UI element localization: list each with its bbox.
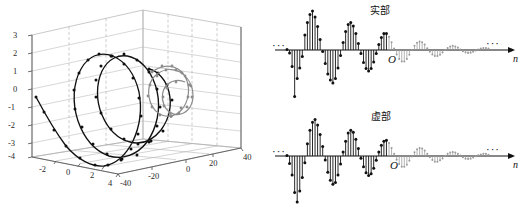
stem-marker (301, 176, 304, 179)
figure-root: 3 2 1 0 -1 -2 -3 -4 -2 0 2 4 -40 -20 0 2… (0, 0, 525, 209)
z-tick-label: 1 (13, 66, 17, 76)
stem-marker (296, 77, 299, 80)
stem-marker (447, 47, 449, 49)
y-tick-label: 20 (209, 158, 218, 168)
stem-marker (462, 156, 464, 158)
stem-marker (367, 70, 370, 73)
z-tick-label: 3 (13, 30, 17, 40)
stem-marker (467, 52, 469, 54)
stem-marker (296, 200, 299, 203)
stem-marker (308, 129, 311, 132)
stem-marker (475, 50, 477, 52)
stem-marker (401, 60, 403, 62)
stem-marker (359, 52, 362, 55)
stem-marker (408, 54, 410, 56)
stem-marker (344, 140, 347, 143)
stem-marker (385, 139, 388, 142)
stem-marker (380, 36, 383, 39)
stem-marker (419, 41, 421, 43)
stem-marker (434, 55, 436, 57)
stem-marker (403, 60, 405, 62)
helix-near-series (35, 53, 174, 167)
imag-part-title: 虚部 (371, 112, 391, 122)
stem-marker (439, 159, 441, 161)
stem-marker (480, 48, 482, 50)
right-ellipsis: ··· (486, 144, 500, 155)
stem-marker (372, 167, 375, 170)
stem-marker (406, 58, 408, 60)
stem-marker (449, 45, 451, 47)
stem-marker (457, 47, 459, 49)
stem-marker (382, 140, 385, 143)
stem-marker (377, 43, 380, 46)
stem-marker (477, 48, 479, 50)
z-tick-label: 2 (13, 48, 17, 58)
stem-marker (398, 163, 400, 165)
stem-marker (411, 49, 413, 51)
stem-marker (426, 153, 428, 155)
real-part-title: 实部 (370, 6, 390, 16)
stem-marker (457, 153, 459, 155)
y-tick-label: 0 (186, 164, 190, 174)
z-tick-label: -1 (8, 102, 15, 112)
stem-marker (311, 121, 314, 124)
stem-marker (416, 148, 418, 150)
stem-marker (421, 147, 423, 149)
stem-marker (308, 13, 311, 16)
stem-marker (377, 150, 380, 153)
origin-label: O (388, 53, 396, 65)
stem-marker (444, 49, 446, 51)
stem-marker (357, 147, 360, 150)
stem-imag-canvas (265, 104, 525, 209)
stem-marker (362, 165, 365, 168)
plot-3d-canvas (0, 0, 265, 209)
z-tick-label: -3 (8, 138, 15, 148)
stem-marker (337, 173, 340, 176)
stem-marker (436, 55, 438, 57)
stem-marker (431, 159, 433, 161)
stem-marker (306, 21, 309, 24)
x-tick-label: 0 (66, 167, 70, 177)
stem-marker (429, 51, 431, 53)
stem-marker (347, 132, 350, 135)
stem-marker (370, 67, 373, 70)
stem-marker (321, 50, 324, 53)
stem-marker (408, 160, 410, 162)
stem-marker (429, 156, 431, 158)
stem-marker (375, 159, 378, 162)
stem-marker (459, 48, 461, 50)
y-tick-label: -40 (120, 178, 131, 188)
stem-marker (454, 45, 456, 47)
stem-marker (421, 41, 423, 43)
grid-left-wall-h (32, 29, 143, 144)
stem-marker (416, 42, 418, 44)
stem-marker (380, 144, 383, 147)
origin-label: O (390, 159, 398, 171)
plot-3d-helix: 3 2 1 0 -1 -2 -3 -4 -2 0 2 4 -40 -20 0 2… (0, 0, 265, 209)
stem-marker (462, 50, 464, 52)
stem-marker (459, 154, 461, 156)
x-tick-label: 2 (90, 170, 94, 180)
stem-imag-samples (286, 118, 490, 203)
x-tick-label: 4 (108, 178, 112, 188)
right-ellipsis: ··· (486, 38, 500, 49)
stem-marker (339, 163, 342, 166)
stem-marker (347, 23, 350, 26)
stem-marker (393, 48, 395, 50)
stem-marker (431, 54, 433, 56)
y-tick-label: -20 (148, 171, 159, 181)
stem-marker (385, 32, 388, 35)
stem-marker (301, 55, 304, 58)
stem-marker (306, 142, 309, 145)
stem-marker (403, 166, 405, 168)
stem-marker (337, 67, 340, 70)
stem-marker (482, 153, 484, 155)
z-tick-label: -2 (8, 120, 15, 130)
stem-marker (293, 95, 296, 98)
stem-marker (339, 54, 342, 57)
stem-marker (298, 190, 301, 193)
stem-marker (372, 61, 375, 64)
stem-marker (324, 62, 327, 65)
stem-marker (331, 183, 334, 186)
n-axis-label: n (513, 53, 518, 64)
